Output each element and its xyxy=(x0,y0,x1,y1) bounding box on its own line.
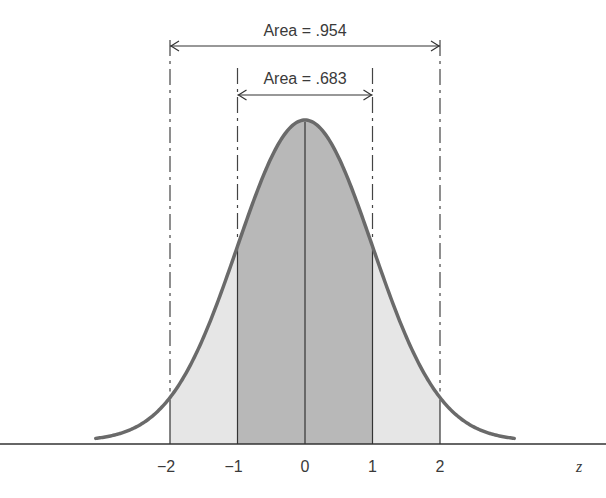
x-tick-label: −1 xyxy=(224,458,242,475)
normal-distribution-chart: Area = .954 Area = .683 −2−1012 z xyxy=(0,0,606,498)
area-683-label: Area = .683 xyxy=(263,70,346,87)
x-tick-label: 1 xyxy=(368,458,377,475)
area-954-label: Area = .954 xyxy=(263,22,346,39)
x-axis-label: z xyxy=(575,458,583,475)
x-tick-label: 2 xyxy=(436,458,445,475)
x-tick-label: 0 xyxy=(301,458,310,475)
x-tick-label: −2 xyxy=(157,458,175,475)
